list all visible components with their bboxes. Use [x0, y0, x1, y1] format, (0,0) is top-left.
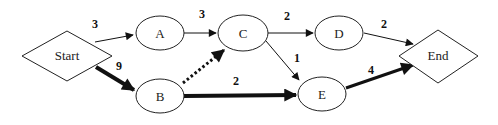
node-b: B — [136, 79, 184, 113]
edge-a-c: 3 — [184, 7, 216, 33]
edge-start-a: 3 — [92, 17, 133, 42]
node-label-d: D — [334, 26, 343, 41]
node-label-a: A — [155, 26, 165, 41]
edge-weight-a-c: 3 — [199, 7, 205, 21]
edge-c-e: 1 — [266, 41, 300, 80]
edge-start-b: 9 — [96, 59, 134, 90]
edge-weight-start-b: 9 — [116, 59, 122, 73]
node-label-e: E — [318, 87, 326, 102]
edge-b-c — [183, 50, 224, 83]
node-d: D — [315, 16, 363, 50]
edge-d-end: 2 — [364, 17, 413, 44]
node-end: End — [399, 30, 478, 83]
edge-weight-c-e: 1 — [294, 51, 300, 65]
node-a: A — [136, 16, 184, 50]
node-label-c: C — [239, 26, 248, 41]
edge-weight-e-end: 4 — [368, 63, 374, 77]
node-label-end: End — [428, 48, 449, 63]
edge-e-end: 4 — [346, 63, 413, 88]
node-e: E — [298, 77, 346, 111]
edge-b-e: 2 — [184, 74, 296, 96]
edge-weight-start-a: 3 — [92, 17, 98, 31]
network-diagram: 3 9 3 2 2 1 2 4 Start A B — [0, 0, 498, 125]
edge-c-d: 2 — [268, 9, 313, 33]
edge-weight-d-end: 2 — [381, 17, 387, 31]
node-label-start: Start — [55, 48, 80, 63]
node-c: C — [218, 15, 268, 51]
node-start: Start — [22, 31, 112, 81]
edge-weight-c-d: 2 — [284, 9, 290, 23]
edge-weight-b-e: 2 — [233, 74, 239, 88]
node-label-b: B — [156, 89, 165, 104]
